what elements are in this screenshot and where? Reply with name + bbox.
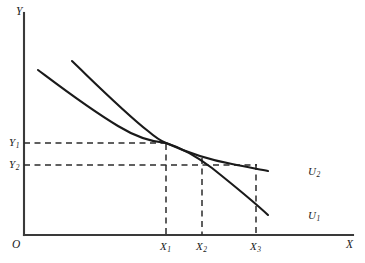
x-tick-label-x1: X1	[160, 241, 171, 252]
u1-subscript-text: 1	[316, 214, 320, 223]
x-tick-label-x2: X2	[196, 241, 207, 252]
x2-subscript-text: 2	[203, 245, 207, 254]
x-tick-label-x3: X3	[250, 241, 261, 252]
x1-base-text: X	[160, 240, 167, 252]
y-axis-label: Y	[16, 6, 23, 18]
x2-base-text: X	[196, 240, 203, 252]
u2-base-text: U	[308, 165, 316, 177]
indifference-curve-figure: Y X O Y1 Y2 X1 X2 X3 U2 U1	[0, 0, 365, 263]
y1-base-text: Y	[9, 136, 15, 148]
origin-label-text: O	[12, 238, 21, 250]
plot-area	[0, 0, 365, 263]
y1-subscript-text: 1	[16, 141, 20, 150]
y-tick-label-y1: Y1	[9, 137, 19, 148]
curve-label-u2: U2	[308, 166, 320, 177]
y-tick-label-y2: Y2	[9, 159, 19, 170]
u2-subscript-text: 2	[316, 170, 320, 179]
y-axis-label-text: Y	[16, 5, 23, 17]
origin-label: O	[12, 239, 21, 251]
curve-label-u1: U1	[308, 210, 320, 221]
x-axis-label: X	[346, 239, 353, 251]
x1-subscript-text: 1	[167, 245, 171, 254]
y2-subscript-text: 2	[16, 163, 20, 172]
x3-subscript-text: 3	[257, 245, 261, 254]
u1-base-text: U	[308, 209, 316, 221]
y2-base-text: Y	[9, 158, 15, 170]
x-axis-label-text: X	[346, 238, 353, 250]
x3-base-text: X	[250, 240, 257, 252]
